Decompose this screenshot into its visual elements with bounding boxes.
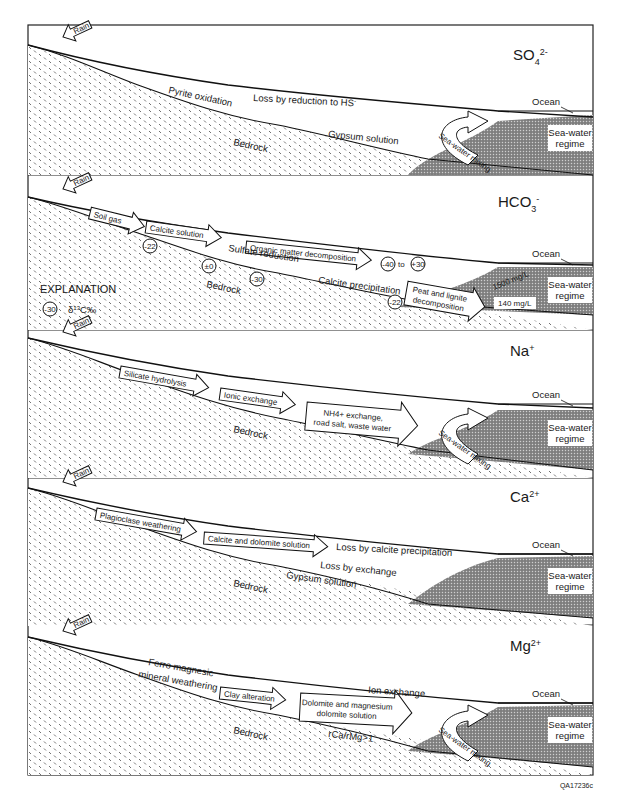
- svg-text:-40: -40: [382, 260, 394, 269]
- sea-water-regime-label: Sea-water: [548, 570, 591, 581]
- svg-text:-22: -22: [389, 298, 401, 307]
- svg-text:-22: -22: [144, 242, 156, 251]
- sea-water-regime-label: Sea-water: [548, 127, 591, 138]
- ocean-leader-line: [561, 550, 573, 556]
- calcite-dolomite-arrow: Calcite and dolomite solution: [203, 527, 328, 558]
- ocean-label: Ocean: [532, 389, 560, 400]
- loss-reduction-label: Loss by reduction to HS-: [253, 92, 356, 108]
- svg-text:+30: +30: [411, 260, 425, 269]
- ocean-label: Ocean: [532, 688, 560, 699]
- explanation-sample-marker: -30: [43, 302, 57, 316]
- ion-label-sodium: Na+: [510, 342, 534, 359]
- ocean-leader-line: [561, 400, 573, 406]
- concentration-low-label: 140 mg/L: [498, 299, 532, 308]
- sea-water-regime-label-2: regime: [555, 290, 584, 301]
- panel-calcium: Rain Plagioclase weathering Calcite and …: [28, 461, 593, 626]
- loss-calcite-label: Loss by calcite precipitation: [336, 541, 453, 558]
- ocean-leader-line: [561, 107, 573, 113]
- explanation-symbol: δ13C‰: [68, 304, 97, 315]
- isotope-marker: -22: [143, 239, 157, 253]
- panel-bicarbonate: Rain Soil gas Calcite solution Organic m…: [28, 168, 593, 330]
- ion-label-bicarbonate: HCO3-: [498, 193, 539, 214]
- sea-water-regime-label-2: regime: [555, 581, 584, 592]
- ocean-label: Ocean: [532, 96, 560, 107]
- isotope-marker: -22: [388, 295, 402, 309]
- svg-text:±0: ±0: [205, 262, 214, 271]
- svg-text:-30: -30: [251, 275, 263, 284]
- panel-sulfate: Rain Pyrite oxidation Loss by reduction …: [28, 16, 593, 175]
- panel-magnesium: Rain Ferro magnesic mineral weathering C…: [28, 610, 593, 775]
- sea-water-regime-label: Sea-water: [548, 422, 591, 433]
- sea-water-regime-label-2: regime: [555, 138, 584, 149]
- ocean-label: Ocean: [532, 248, 560, 259]
- ion-label-calcium: Ca2+: [510, 488, 539, 505]
- sea-water-regime-label: Sea-water: [548, 719, 591, 730]
- ion-label-magnesium: Mg2+: [510, 637, 541, 654]
- ion-label-sulfate: SO42-: [513, 46, 548, 67]
- ocean-leader-line: [561, 699, 573, 705]
- rain-label: Rain: [72, 21, 91, 36]
- isotope-marker: -30: [250, 272, 264, 286]
- isotope-marker: -40: [381, 257, 395, 271]
- range-to-label: to: [398, 260, 405, 269]
- figure-code: QA17236c: [560, 782, 594, 790]
- sea-water-regime-label-2: regime: [555, 433, 584, 444]
- rain-arrow: Rain: [59, 16, 94, 45]
- sea-water-regime-label-2: regime: [555, 730, 584, 741]
- hydrochemistry-diagram: Rain Pyrite oxidation Loss by reduction …: [0, 0, 618, 805]
- sea-water-regime-label: Sea-water: [548, 279, 591, 290]
- isotope-marker: +30: [411, 257, 425, 271]
- svg-text:-30: -30: [44, 305, 56, 314]
- explanation-title: EXPLANATION: [40, 283, 116, 295]
- panel-sodium: Rain Silicate hydrolysis Ionic exchange …: [28, 311, 593, 478]
- isotope-marker: ±0: [202, 259, 216, 273]
- ocean-label: Ocean: [532, 539, 560, 550]
